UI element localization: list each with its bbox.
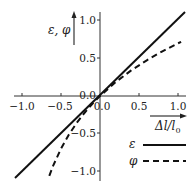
legend-label-epsilon: ε	[129, 137, 135, 151]
x-tick-label: 1.0	[170, 100, 187, 112]
x-tick-label: −1.0	[9, 100, 35, 112]
legend: ε φ	[129, 137, 186, 168]
svg-text:Δl/l0: Δl/l0	[154, 119, 180, 135]
x-axis-label: Δl/l0	[150, 114, 187, 136]
y-tick-label: 1.0	[79, 14, 96, 26]
x-tick-label: −0.5	[47, 100, 73, 112]
y-tick-label: −1.0	[71, 165, 97, 177]
legend-label-phi: φ	[129, 154, 138, 168]
y-tick-label: 0.5	[79, 52, 96, 64]
arrow-right-icon	[180, 114, 187, 119]
y-tick-label: 0.0	[79, 89, 96, 101]
x-label-subscript: 0	[175, 126, 180, 135]
y-tick-label: −0.5	[71, 127, 97, 139]
arrow-up-icon	[72, 11, 77, 18]
y-label-text: ε, φ	[48, 23, 71, 37]
chart: −1.0 −0.5 0.0 0.5 1.0 1.0 0.5 0.0 −0.5 −…	[0, 0, 196, 188]
x-tick-label: 0.0	[94, 100, 111, 112]
x-tick-label: 0.5	[131, 100, 148, 112]
y-axis-label: ε, φ	[48, 11, 77, 45]
x-label-text: Δl/l	[154, 119, 176, 133]
